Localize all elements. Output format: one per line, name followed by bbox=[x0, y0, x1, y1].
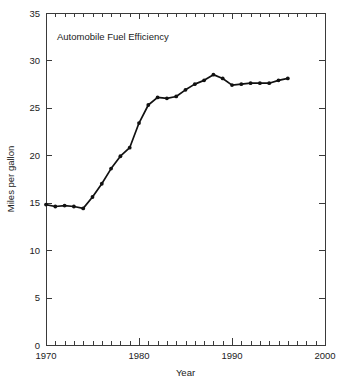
data-point bbox=[221, 77, 225, 81]
data-point bbox=[277, 78, 281, 82]
x-tick-label: 2000 bbox=[314, 350, 335, 361]
y-tick-label: 15 bbox=[29, 197, 40, 208]
data-point bbox=[202, 78, 206, 82]
data-point bbox=[267, 81, 271, 85]
y-tick-label: 30 bbox=[29, 55, 40, 66]
chart-title: Automobile Fuel Efficiency bbox=[57, 31, 169, 42]
data-point bbox=[100, 182, 104, 186]
chart-container: 1970198019902000 05101520253035 Automobi… bbox=[0, 0, 349, 385]
y-tick-label: 0 bbox=[35, 340, 40, 351]
data-point bbox=[44, 203, 48, 207]
data-point bbox=[174, 95, 178, 99]
y-axis-title: Miles per gallon bbox=[5, 146, 16, 213]
data-point bbox=[109, 167, 113, 171]
data-point bbox=[72, 205, 76, 209]
data-point bbox=[63, 204, 67, 208]
x-axis-title: Year bbox=[176, 367, 195, 378]
y-tick-label: 10 bbox=[29, 245, 40, 256]
data-point bbox=[258, 81, 262, 85]
data-point bbox=[193, 82, 197, 86]
data-point bbox=[53, 205, 57, 209]
data-point bbox=[286, 77, 290, 81]
y-tick-label: 20 bbox=[29, 150, 40, 161]
data-point bbox=[81, 207, 85, 211]
data-point bbox=[91, 195, 95, 199]
data-point bbox=[249, 81, 253, 85]
fuel-efficiency-line-chart: 1970198019902000 05101520253035 Automobi… bbox=[0, 0, 349, 385]
data-point bbox=[230, 83, 234, 87]
data-point bbox=[137, 121, 141, 125]
y-tick-label: 25 bbox=[29, 102, 40, 113]
data-point bbox=[128, 146, 132, 150]
x-tick-label: 1980 bbox=[128, 350, 149, 361]
data-point bbox=[184, 88, 188, 92]
x-tick-label: 1970 bbox=[35, 350, 56, 361]
data-point bbox=[119, 154, 123, 158]
data-point bbox=[156, 96, 160, 100]
x-tick-label: 1990 bbox=[221, 350, 242, 361]
data-point bbox=[212, 73, 216, 77]
data-point bbox=[165, 96, 169, 100]
chart-background bbox=[0, 0, 349, 385]
y-tick-label: 5 bbox=[35, 292, 40, 303]
data-point bbox=[146, 103, 150, 107]
data-point bbox=[239, 82, 243, 86]
y-tick-label: 35 bbox=[29, 8, 40, 19]
